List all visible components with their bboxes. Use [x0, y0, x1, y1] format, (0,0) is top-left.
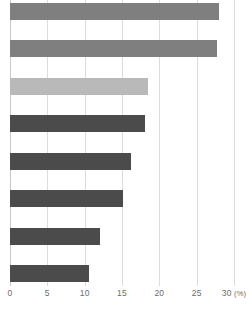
bar-row	[10, 228, 100, 245]
x-tick-label-0: 0	[8, 288, 13, 298]
bar-row	[10, 265, 89, 282]
bar-row	[10, 3, 219, 20]
bar	[10, 40, 217, 57]
bar-row	[10, 40, 217, 57]
x-axis: 051015202530 (%)	[10, 288, 234, 309]
bar-row	[10, 115, 145, 132]
bars-layer	[10, 0, 234, 286]
bar	[10, 265, 89, 282]
x-tick-label-30: 30 (%)	[222, 288, 246, 298]
x-tick-label-5: 5	[45, 288, 50, 298]
gridline-30	[234, 0, 235, 286]
bar-row	[10, 153, 131, 170]
x-tick-label-20: 20	[154, 288, 164, 298]
bar	[10, 115, 145, 132]
x-axis-unit-label: (%)	[232, 289, 247, 298]
x-tick-label-15: 15	[117, 288, 127, 298]
plot-area	[10, 0, 234, 286]
x-tick-label-10: 10	[80, 288, 90, 298]
bar	[10, 228, 100, 245]
bar	[10, 153, 131, 170]
bar-chart: 051015202530 (%)	[0, 0, 252, 309]
bar	[10, 78, 148, 95]
bar	[10, 190, 123, 207]
bar-row	[10, 190, 123, 207]
bar	[10, 3, 219, 20]
bar-row	[10, 78, 148, 95]
x-tick-label-25: 25	[192, 288, 202, 298]
